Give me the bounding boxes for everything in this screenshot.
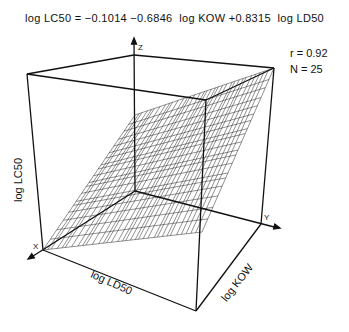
- box-edge-top-back-left: [27, 55, 134, 74]
- box-edge-vertical-front: [196, 100, 206, 311]
- x-axis-label: log LD50: [89, 268, 134, 297]
- y-axis-label: log KOW: [219, 261, 256, 304]
- z-axis-label: log LC50: [12, 158, 24, 202]
- y-axis-letter: Y: [264, 213, 270, 222]
- y-axis-arrow: [274, 224, 280, 229]
- plot-area: Z Y X log LC50 log LD50 log KOW: [0, 0, 349, 332]
- mesh-line-v: [101, 129, 247, 165]
- x-axis-line: [30, 191, 135, 258]
- x-axis-letter: X: [33, 242, 39, 251]
- y-axis-line: [135, 191, 278, 228]
- z-axis-letter: Z: [138, 43, 143, 52]
- x-axis-arrow: [28, 254, 34, 259]
- box-edge-top-back-right: [134, 55, 274, 68]
- box-edge-vertical-left: [27, 74, 43, 250]
- z-axis-arrow: [132, 38, 137, 44]
- mesh-line-v: [86, 155, 236, 187]
- mesh-line-v: [69, 186, 222, 212]
- z-axis-line: [134, 40, 135, 191]
- regression-plane-mesh: [43, 68, 274, 250]
- box-edge-vertical-right: [261, 68, 274, 224]
- box-edge-top-front-right: [206, 68, 274, 100]
- mesh-line-v: [73, 178, 225, 206]
- mesh-line-v: [129, 79, 269, 124]
- box-edge-top-front-left: [27, 74, 206, 100]
